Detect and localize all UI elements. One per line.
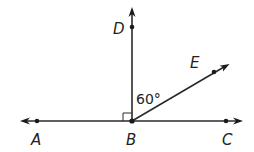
label-c: C — [222, 131, 233, 149]
point-b — [129, 118, 134, 123]
label-e: E — [190, 54, 200, 72]
label-a: A — [30, 131, 41, 149]
angle-label-60: 60° — [136, 91, 161, 107]
arrowhead-e — [220, 64, 230, 72]
point-d — [130, 25, 135, 30]
label-d: D — [113, 20, 125, 38]
point-a — [35, 119, 40, 124]
point-c — [224, 119, 229, 124]
geometry-diagram: A B C D E 60° — [0, 0, 254, 152]
point-e — [212, 70, 217, 75]
label-b: B — [126, 131, 136, 149]
